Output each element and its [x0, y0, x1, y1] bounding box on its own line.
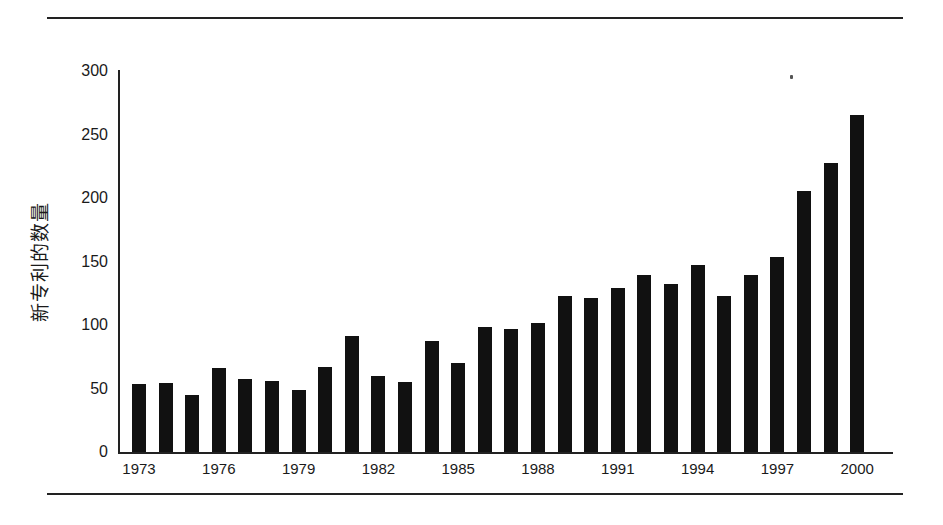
bar-1983 [398, 382, 412, 453]
bar-1973 [132, 384, 146, 453]
x-tick-label: 1979 [269, 461, 329, 477]
bar-1978 [265, 381, 279, 453]
scan-speck [790, 75, 793, 79]
bar-2000 [850, 115, 864, 453]
x-tick-label: 1973 [109, 461, 169, 477]
bar-1998 [797, 191, 811, 453]
x-tick-label: 1985 [428, 461, 488, 477]
x-tick-label: 2000 [827, 461, 887, 477]
bar-1996 [744, 275, 758, 453]
x-tick-label: 1997 [747, 461, 807, 477]
x-axis-line [118, 452, 893, 454]
bottom-rule [47, 493, 903, 495]
bar-1976 [212, 368, 226, 453]
bar-1985 [451, 363, 465, 453]
bar-1982 [371, 376, 385, 453]
x-tick-label: 1991 [588, 461, 648, 477]
bar-1995 [717, 296, 731, 453]
y-tick-label: 150 [60, 254, 108, 270]
bar-1989 [558, 296, 572, 453]
bar-1997 [770, 257, 784, 453]
bar-1994 [691, 265, 705, 453]
y-tick-label: 100 [60, 317, 108, 333]
bar-1977 [238, 379, 252, 453]
y-tick-label: 300 [60, 63, 108, 79]
y-tick-label: 50 [60, 381, 108, 397]
bar-1991 [611, 288, 625, 453]
x-tick-label: 1994 [668, 461, 728, 477]
bar-1975 [185, 395, 199, 453]
x-tick-label: 1982 [348, 461, 408, 477]
y-tick-label: 200 [60, 190, 108, 206]
x-tick-label: 1988 [508, 461, 568, 477]
bar-1984 [425, 341, 439, 453]
y-tick-label: 250 [60, 127, 108, 143]
bar-1979 [292, 390, 306, 454]
bar-1999 [824, 163, 838, 453]
top-rule [47, 17, 903, 19]
x-tick-label: 1976 [189, 461, 249, 477]
bar-1974 [159, 383, 173, 453]
bar-1986 [478, 327, 492, 453]
bar-1990 [584, 298, 598, 453]
bar-1980 [318, 367, 332, 453]
bar-1988 [531, 323, 545, 453]
bar-1993 [664, 284, 678, 453]
bar-1992 [637, 275, 651, 453]
y-tick-label: 0 [60, 444, 108, 460]
bar-1987 [504, 329, 518, 453]
bar-1981 [345, 336, 359, 453]
y-axis-line [118, 70, 120, 454]
y-axis-label: 新专利的数量 [25, 202, 52, 322]
